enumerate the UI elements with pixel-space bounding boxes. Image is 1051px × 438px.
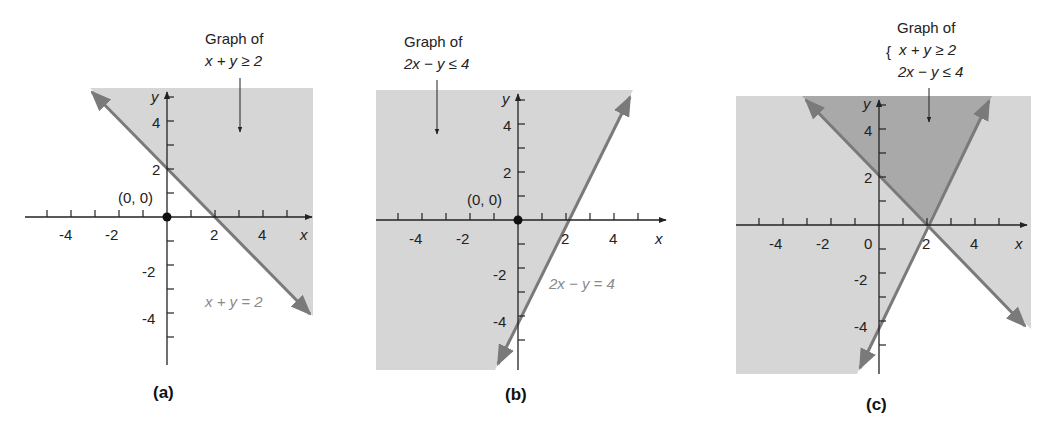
x-axis-label: x	[299, 226, 308, 243]
test-point-b	[514, 216, 523, 225]
x-axis-label: x	[654, 230, 663, 247]
x-tick-label: 2	[210, 226, 218, 243]
annotation-inequality: 2x − y ≤ 4	[403, 55, 469, 72]
y-tick-label: -4	[493, 313, 506, 330]
panel-a: -4 -2 2 4 4 2 -2 -4 x y (0, 0) Graph of …	[25, 30, 313, 402]
y-tick-label: 4	[152, 114, 160, 131]
y-tick-label: 2	[503, 164, 511, 181]
annotation-title: Graph of	[404, 33, 463, 50]
system-brace: {	[886, 43, 891, 60]
caption-a: (a)	[153, 383, 174, 402]
y-tick-label: 4	[503, 117, 511, 134]
y-tick-label: 2	[152, 161, 160, 178]
test-point-label: (0, 0)	[118, 189, 153, 206]
caption-b: (b)	[505, 385, 527, 404]
x-tick-label: -4	[59, 226, 72, 243]
boundary-label: x + y = 2	[204, 293, 263, 310]
test-point-a	[163, 213, 172, 222]
caption-c: (c)	[866, 395, 887, 414]
annotation-title: Graph of	[205, 30, 264, 47]
y-tick-label: -4	[854, 318, 867, 335]
x-tick-label: 0	[864, 235, 872, 252]
y-tick-label: 4	[864, 122, 872, 139]
y-tick-label: -4	[142, 310, 155, 327]
x-tick-label: -4	[409, 230, 422, 247]
figure: -4 -2 2 4 4 2 -2 -4 x y (0, 0) Graph of …	[0, 0, 1051, 438]
system-inequality-1: x + y ≥ 2	[898, 41, 957, 58]
annotation-inequality: x + y ≥ 2	[204, 52, 263, 69]
x-tick-label: 2	[922, 235, 930, 252]
x-tick-label: -4	[769, 235, 782, 252]
x-tick-label: -2	[105, 226, 118, 243]
x-tick-label: -2	[456, 230, 469, 247]
x-tick-label: -2	[816, 235, 829, 252]
annotation-title: Graph of	[897, 19, 956, 36]
x-tick-label: 4	[258, 226, 266, 243]
test-point-label: (0, 0)	[467, 191, 502, 208]
boundary-label: 2x − y = 4	[548, 275, 615, 292]
y-tick-label: -2	[854, 271, 867, 288]
x-tick-label: 4	[609, 230, 617, 247]
x-tick-label: 4	[970, 235, 978, 252]
panel-c: -4 -2 0 2 4 4 2 -2 -4 x y Graph of { x +…	[736, 19, 1031, 414]
x-axis-label: x	[1014, 235, 1023, 252]
y-tick-label: -2	[493, 266, 506, 283]
x-tick-label: 2	[561, 230, 569, 247]
y-tick-label: -2	[142, 263, 155, 280]
y-tick-label: 2	[864, 169, 872, 186]
system-inequality-2: 2x − y ≤ 4	[897, 63, 963, 80]
panel-b: -4 -2 2 4 4 2 -2 -4 x y (0, 0) Graph of …	[376, 33, 666, 404]
